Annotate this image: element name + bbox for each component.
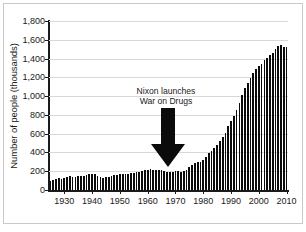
x-tick-mark xyxy=(148,191,149,194)
bar xyxy=(275,49,277,190)
x-axis-line xyxy=(48,190,289,192)
bar xyxy=(283,47,285,190)
x-tick-label: 1970 xyxy=(165,196,185,206)
bar xyxy=(191,165,193,190)
y-tick-label: 400 xyxy=(30,147,45,157)
x-tick-mark xyxy=(64,191,65,194)
bar xyxy=(158,170,160,190)
x-tick-label: 1990 xyxy=(221,196,241,206)
y-tick-label: 1,200 xyxy=(22,72,45,82)
bar xyxy=(230,121,232,190)
y-axis-ticks: 02004006008001,0001,2001,4001,6001,800 xyxy=(0,0,45,232)
bar xyxy=(172,172,174,190)
bar xyxy=(130,173,132,190)
x-tick-mark xyxy=(92,191,93,194)
bar xyxy=(125,174,127,190)
bar xyxy=(280,45,282,190)
gridline xyxy=(49,40,288,41)
bar xyxy=(63,178,65,190)
bar xyxy=(108,177,110,190)
bar xyxy=(169,172,171,190)
bar xyxy=(241,95,243,190)
bar xyxy=(161,170,163,190)
bar xyxy=(261,64,263,190)
x-tick-label: 1950 xyxy=(110,196,130,206)
bar xyxy=(119,174,121,190)
bar xyxy=(197,162,199,190)
x-tick-label: 2000 xyxy=(249,196,269,206)
bar xyxy=(58,178,60,190)
bar xyxy=(150,169,152,190)
gridline xyxy=(49,59,288,60)
bar xyxy=(186,170,188,190)
bar xyxy=(141,171,143,190)
bar xyxy=(239,103,241,191)
bar xyxy=(91,174,93,190)
bar xyxy=(105,177,107,190)
y-tick-label: 1,000 xyxy=(22,91,45,101)
y-tick-label: 1,800 xyxy=(22,16,45,26)
bar xyxy=(225,133,227,190)
bar xyxy=(233,116,235,190)
bar xyxy=(155,170,157,190)
x-tick-mark xyxy=(203,191,204,194)
bar xyxy=(183,171,185,190)
bar xyxy=(258,66,260,190)
bar xyxy=(86,175,88,190)
bar xyxy=(222,137,224,190)
bar xyxy=(122,174,124,190)
bar xyxy=(72,177,74,190)
bar xyxy=(163,171,165,190)
bar xyxy=(152,170,154,190)
x-tick-mark xyxy=(175,191,176,194)
bar xyxy=(205,157,207,190)
bar xyxy=(180,172,182,190)
x-tick-label: 2010 xyxy=(277,196,297,206)
bar xyxy=(61,179,63,190)
chart-figure: Number of people (thousands) 02004006008… xyxy=(0,0,306,232)
bar xyxy=(188,167,190,190)
bar xyxy=(52,180,54,190)
bar xyxy=(166,172,168,190)
bar xyxy=(272,53,274,190)
x-tick-mark xyxy=(287,191,288,194)
bar xyxy=(236,110,238,190)
x-tick-mark xyxy=(120,191,121,194)
bar xyxy=(213,148,215,190)
bar xyxy=(50,181,52,190)
bar xyxy=(194,163,196,190)
bar xyxy=(88,174,90,190)
bar xyxy=(94,174,96,190)
bar xyxy=(202,160,204,190)
bar xyxy=(216,145,218,190)
bar xyxy=(264,60,266,190)
bar xyxy=(111,176,113,190)
down-arrow-icon xyxy=(150,108,186,168)
bar xyxy=(80,176,82,190)
bar xyxy=(177,171,179,190)
bar xyxy=(136,172,138,190)
bar xyxy=(208,153,210,190)
y-tick-label: 600 xyxy=(30,129,45,139)
x-tick-label: 1930 xyxy=(54,196,74,206)
bar xyxy=(133,173,135,190)
bar xyxy=(55,179,57,190)
bar xyxy=(266,58,268,190)
bar xyxy=(175,171,177,190)
bar xyxy=(227,126,229,190)
bar xyxy=(255,69,257,190)
bar xyxy=(127,174,129,190)
bar xyxy=(69,176,71,190)
bar xyxy=(252,73,254,190)
x-tick-label: 1940 xyxy=(82,196,102,206)
x-tick-label: 1960 xyxy=(138,196,158,206)
bar xyxy=(77,176,79,190)
y-tick-label: 1,600 xyxy=(22,35,45,45)
bar xyxy=(147,170,149,190)
x-tick-mark xyxy=(231,191,232,194)
bar xyxy=(144,170,146,190)
bar xyxy=(100,177,102,190)
gridline xyxy=(49,21,288,22)
bar xyxy=(286,47,288,190)
bar xyxy=(97,176,99,190)
